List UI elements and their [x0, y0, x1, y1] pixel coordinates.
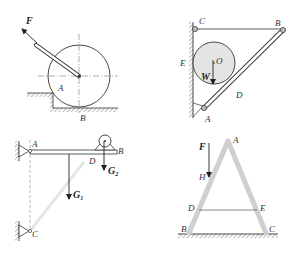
panel-c: G1 G2 A B D C	[15, 135, 124, 241]
label-o: O	[216, 56, 223, 66]
pin-a	[201, 105, 206, 110]
hinge-c	[19, 225, 29, 237]
panel-d: F A H D E B C	[178, 135, 278, 238]
statics-diagram: F A B C B E O W D A	[0, 0, 300, 269]
panel-b: C B E O W D A	[179, 16, 286, 124]
ground	[27, 93, 118, 112]
force-arrow-f	[22, 29, 37, 43]
label-f: F	[25, 15, 33, 26]
label-e: E	[179, 58, 186, 68]
ground	[178, 234, 278, 238]
label-b: B	[80, 113, 86, 123]
support-a	[193, 103, 203, 117]
wall	[189, 22, 193, 118]
label-d: D	[187, 203, 195, 213]
pin-b	[280, 27, 285, 32]
label-c: C	[199, 16, 206, 26]
leg-ac	[228, 141, 266, 233]
label-d: D	[235, 90, 243, 100]
label-d: D	[88, 156, 96, 166]
panel-a: F A B	[22, 15, 118, 123]
wall-c	[15, 221, 19, 241]
label-b: B	[118, 146, 124, 156]
leg-ab	[189, 141, 228, 233]
hinge-a	[19, 145, 29, 157]
wall-a	[15, 141, 19, 161]
label-h: H	[198, 172, 206, 182]
label-b: B	[275, 18, 281, 28]
handle-bar	[36, 45, 80, 77]
label-w: W	[201, 71, 211, 82]
label-a: A	[57, 83, 64, 93]
pin-c	[192, 26, 197, 31]
label-a: A	[232, 135, 239, 145]
label-f: F	[198, 141, 206, 152]
label-c: C	[32, 229, 39, 239]
label-a: A	[204, 114, 211, 124]
label-c: C	[269, 224, 276, 234]
label-b: B	[181, 224, 187, 234]
label-g1: G1	[73, 189, 83, 201]
label-a: A	[31, 139, 38, 149]
label-g2: G2	[108, 165, 118, 177]
label-e: E	[259, 203, 266, 213]
